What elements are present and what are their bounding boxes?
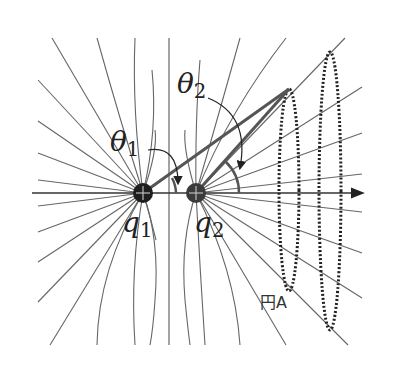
field-lines-canvas — [0, 0, 394, 367]
q2-label: q2 — [194, 209, 224, 240]
field-diagram: θ1 θ2 q1 q2 円A — [0, 0, 394, 367]
charge-q1 — [133, 183, 153, 203]
circle-outer — [319, 52, 341, 330]
line-q1-to-point — [143, 89, 289, 193]
theta1-label: θ1 — [110, 128, 139, 159]
q1-label: q1 — [122, 209, 152, 240]
charge-q2 — [186, 183, 206, 203]
line-q2-to-point — [196, 89, 289, 193]
circle-a — [279, 89, 299, 291]
circle-a-label: 円A — [260, 295, 287, 311]
angle-arc-theta1 — [172, 178, 176, 193]
theta2-label: θ2 — [177, 70, 206, 101]
